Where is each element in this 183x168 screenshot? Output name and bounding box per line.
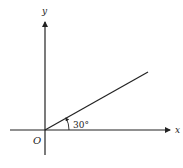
origin-label: O	[33, 135, 41, 146]
angle-arc	[66, 118, 69, 130]
x-axis-label: x	[175, 125, 180, 135]
angle-ray	[45, 72, 148, 130]
y-axis-label: y	[41, 6, 48, 16]
coordinate-diagram: y x O 30°	[0, 0, 183, 168]
angle-label: 30°	[73, 120, 89, 130]
